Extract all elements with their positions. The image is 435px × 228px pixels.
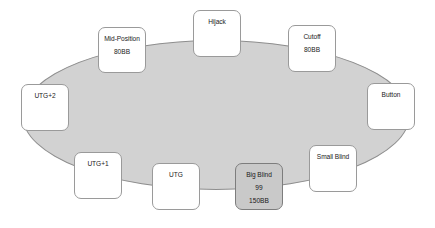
poker-table-diagram: Mid-Position80BBHijackCutoff80BBUTG+2But… (0, 0, 435, 228)
seat-label: Small Blind (317, 152, 349, 161)
seat-stack: 150BB (249, 196, 269, 205)
seat-label: UTG (169, 170, 183, 179)
seat-utg-plus-1[interactable]: UTG+1 (74, 152, 122, 199)
seat-label: Cutoff (303, 32, 320, 41)
seat-hijack[interactable]: Hijack (193, 10, 241, 57)
seat-small-blind[interactable]: Small Blind (309, 145, 357, 192)
seat-mid-position[interactable]: Mid-Position80BB (98, 27, 146, 73)
seat-label: Button (382, 90, 401, 99)
seat-button[interactable]: Button (367, 83, 415, 130)
seat-label: Mid-Position (104, 34, 140, 43)
seat-label: UTG+1 (87, 159, 108, 168)
seat-utg[interactable]: UTG (152, 163, 200, 210)
seat-cutoff[interactable]: Cutoff80BB (288, 25, 336, 72)
seat-label: Hijack (208, 17, 226, 26)
seat-big-blind[interactable]: Big Blind99150BB (235, 163, 283, 210)
seat-hand: 99 (255, 183, 262, 192)
seat-stack: 80BB (304, 45, 320, 54)
seat-label: Big Blind (246, 170, 272, 179)
seat-stack: 80BB (114, 47, 130, 56)
seat-utg-plus-2[interactable]: UTG+2 (21, 84, 69, 131)
seat-label: UTG+2 (34, 91, 55, 100)
